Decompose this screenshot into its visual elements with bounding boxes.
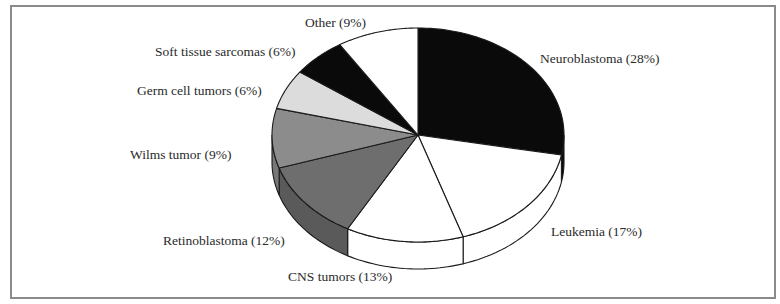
label-other: Other (9%) — [305, 16, 366, 30]
label-leukemia: Leukemia (17%) — [551, 225, 642, 239]
label-retinoblastoma: Retinoblastoma (12%) — [163, 234, 285, 248]
pie-chart — [0, 0, 780, 304]
slice-neuroblastoma — [418, 28, 564, 155]
label-soft-tissue-sarcomas: Soft tissue sarcomas (6%) — [155, 45, 296, 59]
label-neuroblastoma: Neuroblastoma (28%) — [540, 52, 660, 66]
label-wilms-tumor: Wilms tumor (9%) — [130, 148, 231, 162]
label-germ-cell-tumors: Germ cell tumors (6%) — [137, 84, 262, 98]
label-cns-tumors: CNS tumors (13%) — [288, 270, 392, 284]
